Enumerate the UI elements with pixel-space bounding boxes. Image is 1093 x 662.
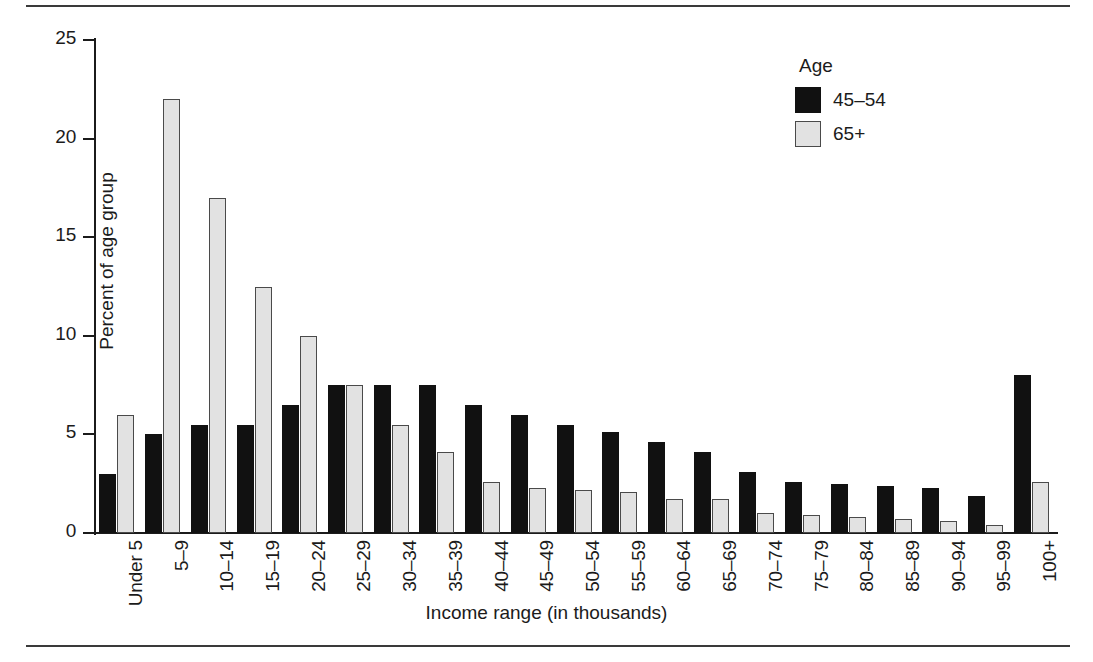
x-tick-label: 55–59 (628, 540, 650, 660)
bar (648, 442, 665, 533)
bar-group (145, 40, 180, 533)
x-tick-label: 10–14 (216, 540, 238, 660)
y-tick-15 (83, 236, 95, 238)
legend: Age 45–5465+ (795, 55, 1015, 155)
bar (511, 415, 528, 533)
bar (1014, 375, 1031, 533)
x-tick-label: 40–44 (491, 540, 513, 660)
bar-group (511, 40, 546, 533)
legend-entries: 45–5465+ (795, 87, 1015, 147)
bar-group (419, 40, 454, 533)
bar (419, 385, 436, 533)
bar (328, 385, 345, 533)
bar (465, 405, 482, 533)
bar (940, 521, 957, 533)
bar-group (739, 40, 774, 533)
bar-group (374, 40, 409, 533)
bar-group (557, 40, 592, 533)
bar-group (328, 40, 363, 533)
bar (374, 385, 391, 533)
bar-group (191, 40, 226, 533)
bar-group (99, 40, 134, 533)
bar-group (237, 40, 272, 533)
bar (575, 490, 592, 533)
bar (712, 499, 729, 533)
bar (163, 99, 180, 533)
bar (255, 287, 272, 534)
bar-group (602, 40, 637, 533)
y-tick-label-15: 15 (28, 224, 76, 246)
bar-group (465, 40, 500, 533)
legend-entry: 65+ (795, 121, 1015, 147)
legend-swatch-icon (795, 87, 821, 113)
bar (602, 432, 619, 533)
bar (145, 434, 162, 533)
x-tick-label: 50–54 (582, 540, 604, 660)
bar-group (282, 40, 317, 533)
bar-group (694, 40, 729, 533)
bar (849, 517, 866, 533)
bar (620, 492, 637, 533)
y-tick-label-5: 5 (28, 421, 76, 443)
bar (529, 488, 546, 533)
x-tick-label: Under 5 (125, 540, 147, 660)
bar (803, 515, 820, 533)
bar (831, 484, 848, 533)
x-tick-label: 75–79 (811, 540, 833, 660)
x-tick-label: 85–89 (902, 540, 924, 660)
bar (1032, 482, 1049, 533)
x-tick-label: 30–34 (399, 540, 421, 660)
x-tick-label: 80–84 (856, 540, 878, 660)
legend-title: Age (799, 55, 1015, 77)
x-axis-label: Income range (in thousands) (0, 602, 1093, 624)
y-tick-label-0: 0 (28, 520, 76, 542)
legend-entry: 45–54 (795, 87, 1015, 113)
bar (557, 425, 574, 533)
x-tick-label: 45–49 (536, 540, 558, 660)
bar (209, 198, 226, 533)
bar (986, 525, 1003, 533)
x-tick-label: 15–19 (262, 540, 284, 660)
bar (666, 499, 683, 533)
legend-label: 65+ (833, 123, 865, 145)
y-tick-20 (83, 138, 95, 140)
bar (99, 474, 116, 533)
bar (922, 488, 939, 533)
bar (300, 336, 317, 533)
legend-swatch-icon (795, 121, 821, 147)
y-tick-label-20: 20 (28, 126, 76, 148)
bar (877, 486, 894, 533)
x-tick-label: 70–74 (765, 540, 787, 660)
bar (694, 452, 711, 533)
bar-group (648, 40, 683, 533)
x-tick-label: 95–99 (993, 540, 1015, 660)
y-tick-label-10: 10 (28, 323, 76, 345)
x-tick-label: 25–29 (353, 540, 375, 660)
bar (757, 513, 774, 533)
bar (483, 482, 500, 533)
bar (437, 452, 454, 533)
y-tick-5 (83, 433, 95, 435)
bar (968, 496, 985, 533)
figure: 0510152025 Percent of age group Under 55… (0, 0, 1093, 662)
legend-label: 45–54 (833, 89, 886, 111)
bar (191, 425, 208, 533)
bar (346, 385, 363, 533)
y-tick-label-25: 25 (28, 27, 76, 49)
bar (237, 425, 254, 533)
x-tick-label: 90–94 (948, 540, 970, 660)
x-tick-label: 35–39 (445, 540, 467, 660)
x-tick-label: 100+ (1039, 540, 1061, 660)
bar (282, 405, 299, 533)
bar (739, 472, 756, 533)
bar (392, 425, 409, 533)
x-tick-label: 60–64 (673, 540, 695, 660)
x-tick-label: 65–69 (719, 540, 741, 660)
bar (785, 482, 802, 533)
bar (895, 519, 912, 533)
y-tick-10 (83, 335, 95, 337)
x-tick-label: 20–24 (308, 540, 330, 660)
bar-group (1014, 40, 1049, 533)
top-rule (26, 5, 1070, 7)
y-tick-25 (83, 39, 95, 41)
